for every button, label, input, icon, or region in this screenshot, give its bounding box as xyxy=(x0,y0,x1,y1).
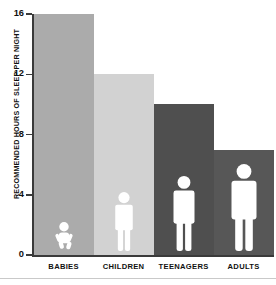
y-axis-tick-label: 12 xyxy=(4,69,24,78)
teenager-figure-icon xyxy=(168,175,200,251)
y-axis-tick-mark xyxy=(26,254,32,256)
x-axis-label-teenagers: TEENAGERS xyxy=(154,262,214,271)
adult-figure-icon xyxy=(226,163,262,251)
bar-babies xyxy=(34,14,94,255)
baby-figure-icon xyxy=(53,221,75,251)
x-axis-label-babies: BABIES xyxy=(34,262,94,271)
plot-area xyxy=(34,14,274,255)
sleep-hours-bar-chart: RECOMMENDED HOURS OF SLEEP PER NIGHT 048… xyxy=(0,0,276,285)
footer-divider xyxy=(0,278,276,279)
x-axis-label-adults: ADULTS xyxy=(214,262,274,271)
y-axis-tick-mark xyxy=(26,74,32,76)
y-axis-tick-label: 16 xyxy=(4,9,24,18)
y-axis-tick-label: 8 xyxy=(4,130,24,139)
y-axis-tick-label: 0 xyxy=(4,250,24,259)
bar-teenagers xyxy=(154,104,214,255)
y-axis-tick-mark xyxy=(26,194,32,196)
bar-children xyxy=(94,74,154,255)
y-axis-tick-mark xyxy=(26,134,32,136)
x-axis-label-children: CHILDREN xyxy=(94,262,154,271)
y-axis-tick-mark xyxy=(26,13,32,15)
child-figure-icon xyxy=(110,191,138,251)
x-axis-line xyxy=(32,255,274,257)
y-axis-tick-label: 4 xyxy=(4,190,24,199)
bar-adults xyxy=(214,150,274,255)
y-axis-title: RECOMMENDED HOURS OF SLEEP PER NIGHT xyxy=(13,9,21,219)
